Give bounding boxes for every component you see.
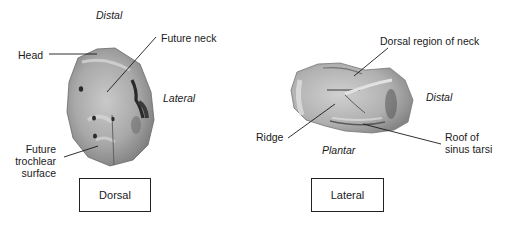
orientation-label-lateral: Lateral [163, 92, 195, 104]
view-label-box-dorsal: Dorsal [79, 178, 151, 212]
view-label-dorsal: Dorsal [99, 189, 131, 201]
leader-roof-sinus [363, 124, 441, 144]
annotation-ridge: Ridge [256, 131, 283, 143]
annotation-roof-of-sinus-tarsi: Roof of sinus tarsi [445, 131, 492, 155]
orientation-label-plantar: Plantar [322, 144, 355, 156]
annotation-dorsal-region-of-neck: Dorsal region of neck [380, 35, 479, 47]
annotation-future-trochlear-surface: Future trochlear surface [14, 143, 56, 179]
annotation-future-neck: Future neck [161, 32, 216, 44]
orientation-label-distal-top: Distal [96, 9, 122, 21]
view-label-lateral: Lateral [331, 189, 365, 201]
orientation-label-distal-right: Distal [426, 91, 452, 103]
view-label-box-lateral: Lateral [311, 178, 384, 212]
annotation-head: Head [18, 49, 43, 61]
talus-dorsal-view [67, 48, 154, 166]
